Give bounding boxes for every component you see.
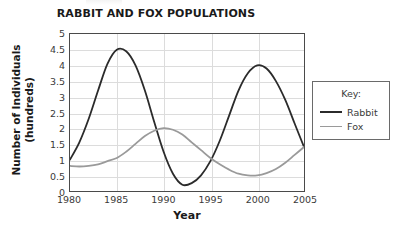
series-line-fox: [70, 128, 304, 175]
legend-label-rabbit: Rabbit: [347, 107, 378, 118]
x-tick-label: 1990: [151, 194, 175, 205]
legend-entry-fox: Fox: [320, 120, 363, 132]
y-tick-label: 2: [59, 123, 65, 134]
y-axis-title-line-2: (hundreds): [23, 45, 36, 176]
y-tick-label: 4.5: [50, 43, 65, 54]
y-tick-label: 5: [59, 28, 65, 39]
top-edge-artifact: [86, 0, 122, 5]
y-tick-label: 2.5: [50, 107, 65, 118]
legend-entry-rabbit: Rabbit: [320, 106, 378, 118]
legend-swatch-fox: [320, 126, 342, 127]
chart-page: RABBIT AND FOX POPULATIONS Number of Ind…: [0, 0, 398, 234]
series-line-rabbit: [70, 49, 304, 186]
x-tick-label: 1980: [57, 194, 81, 205]
y-tick-label: 3.5: [50, 75, 65, 86]
y-axis-title: Number of Individuals (hundreds): [6, 29, 40, 191]
legend-label-fox: Fox: [347, 121, 363, 132]
x-tick-label: 2005: [293, 194, 317, 205]
y-axis-tick-labels: 00.511.522.533.544.55: [40, 26, 67, 192]
plot-area: [69, 33, 305, 192]
x-axis-tick-labels: 198019851990199520002005: [69, 194, 305, 208]
x-tick-label: 1995: [199, 194, 223, 205]
y-tick-label: 3: [59, 91, 65, 102]
legend-swatch-rabbit: [320, 111, 342, 113]
x-tick-label: 1985: [104, 194, 128, 205]
y-tick-label: 1: [59, 155, 65, 166]
x-tick-label: 2000: [246, 194, 270, 205]
x-axis-title: Year: [69, 209, 305, 222]
y-tick-label: 0.5: [50, 171, 65, 182]
y-tick-label: 1.5: [50, 139, 65, 150]
legend-title: Key:: [313, 88, 389, 99]
y-axis-title-line-1: Number of Individuals: [10, 45, 23, 176]
legend-box: Key: Rabbit Fox: [312, 81, 390, 140]
chart-title: RABBIT AND FOX POPULATIONS: [0, 7, 312, 20]
series-canvas: [70, 34, 304, 191]
y-tick-label: 4: [59, 59, 65, 70]
